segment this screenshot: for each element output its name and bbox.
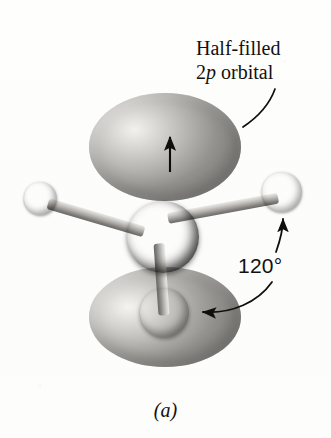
orbital-figure: Half-filled 2p orbital 120° (a): [0, 0, 331, 438]
orbital-label: Half-filled 2p orbital: [196, 36, 280, 85]
figure-caption: (a): [0, 398, 331, 422]
left-bonded-atom: [24, 182, 57, 215]
right-bonded-atom: [262, 172, 302, 212]
orbital-label-leader-line: [243, 89, 275, 127]
orbital-label-p-italic: p: [206, 61, 216, 83]
p-orbital-upper-lobe: [89, 93, 241, 201]
orbital-label-prefix: 2: [196, 61, 206, 83]
orbital-label-line2: 2p orbital: [196, 60, 280, 84]
angle-arrow-to-right-bond: [276, 219, 283, 252]
bond-angle-label: 120°: [238, 253, 282, 279]
orbital-label-suffix: orbital: [216, 61, 273, 83]
orbital-label-line1: Half-filled: [196, 36, 280, 60]
figure-caption-text: (a): [154, 399, 177, 421]
bottom-bonded-atom: [140, 288, 189, 337]
central-atom: [127, 201, 199, 273]
